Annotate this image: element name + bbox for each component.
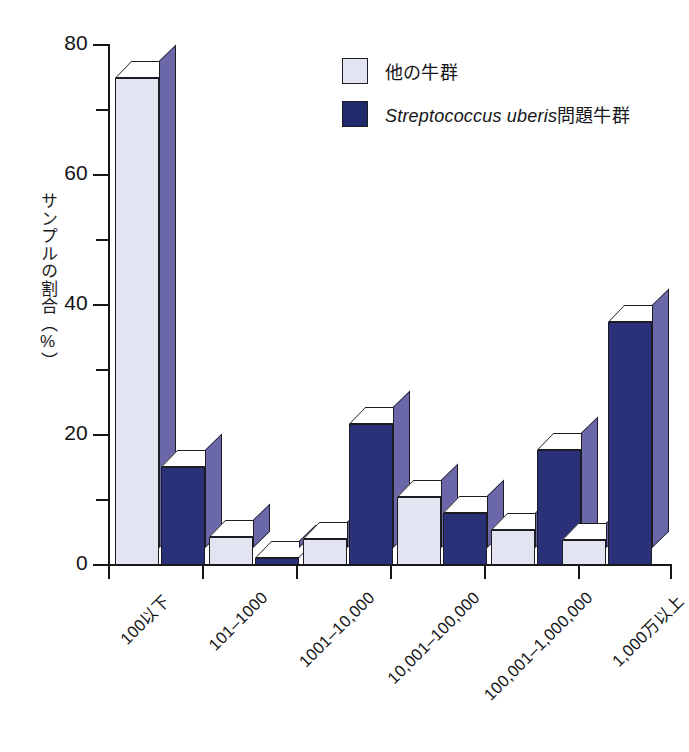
legend-swatch-dark <box>342 101 368 127</box>
y-tick-40 <box>93 304 108 306</box>
x-tick-1 <box>202 564 204 579</box>
x-tick-6 <box>670 564 672 579</box>
x-tick-4 <box>484 564 486 579</box>
bar-side-face <box>652 289 669 548</box>
bar-light-3 <box>397 497 441 565</box>
x-tick-label-3: 10,001–100,000 <box>384 588 484 688</box>
x-tick-label-5: 1,000万以上 <box>606 588 689 671</box>
legend-label-other-herds: 他の牛群 <box>385 58 458 84</box>
bar-front-face <box>491 530 535 565</box>
y-tick-10 <box>96 499 108 501</box>
bar-light-5 <box>562 540 606 565</box>
legend-item-other-herds: 他の牛群 <box>342 58 630 84</box>
legend-label-species-italic: Streptococcus uberis <box>385 106 557 126</box>
bar-front-face <box>608 322 652 565</box>
bar-light-2 <box>303 539 347 565</box>
y-tick-0 <box>93 564 108 566</box>
legend-swatch-light <box>342 58 368 84</box>
x-tick-5 <box>578 564 580 579</box>
x-tick-3 <box>390 564 392 579</box>
y-tick-label-60: 60 <box>42 161 88 185</box>
y-tick-70 <box>96 109 108 111</box>
legend-item-strep-uberis-herds: Streptococcus uberis問題牛群 <box>342 101 630 127</box>
bar-light-4 <box>491 530 535 565</box>
y-tick-label-80: 80 <box>42 31 88 55</box>
x-tick-label-1: 101–1000 <box>205 588 271 654</box>
y-tick-50 <box>96 239 108 241</box>
y-tick-label-group: 80 60 40 20 0 <box>30 0 88 752</box>
y-axis-line <box>108 44 110 566</box>
legend-label-strep-uberis-herds: Streptococcus uberis問題牛群 <box>385 101 630 127</box>
bar-front-face <box>349 424 393 565</box>
bar-front-face <box>562 540 606 565</box>
bar-front-face <box>209 537 253 565</box>
bar-dark-3 <box>443 513 487 565</box>
bar-dark-0 <box>161 467 205 565</box>
bar-dark-1 <box>255 558 299 565</box>
bar-dark-2 <box>349 424 393 565</box>
bar-front-face <box>443 513 487 565</box>
bar-dark-5 <box>608 322 652 565</box>
bar-light-1 <box>209 537 253 565</box>
legend: 他の牛群 Streptococcus uberis問題牛群 <box>342 58 630 144</box>
y-tick-label-20: 20 <box>42 421 88 445</box>
x-tick-2 <box>296 564 298 579</box>
y-tick-80 <box>93 44 108 46</box>
x-tick-label-4: 100,001–1,000,000 <box>480 588 596 704</box>
y-tick-20 <box>93 434 108 436</box>
x-tick-0 <box>108 564 110 579</box>
x-tick-label-2: 1001–10,000 <box>295 588 378 671</box>
bar-front-face <box>255 558 299 565</box>
bar-side-face <box>253 504 270 548</box>
y-tick-label-0: 0 <box>42 551 88 575</box>
bar-front-face <box>161 467 205 565</box>
y-tick-label-40: 40 <box>42 291 88 315</box>
legend-label-suffix: 問題牛群 <box>557 106 630 126</box>
y-tick-60 <box>93 174 108 176</box>
bar-front-face <box>115 78 159 565</box>
y-tick-30 <box>96 369 108 371</box>
bar-front-face <box>303 539 347 565</box>
bar-front-face <box>397 497 441 565</box>
bar-light-0 <box>115 78 159 565</box>
x-tick-label-0: 100以下 <box>114 588 175 649</box>
